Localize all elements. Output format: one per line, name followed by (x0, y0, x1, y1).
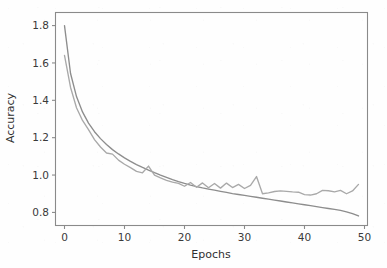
x-axis-title: Epochs (191, 248, 231, 261)
line-chart-plot: 01020304050 0.81.01.21.41.61.8 Epochs Ac… (0, 0, 387, 268)
chart-figure: 01020304050 0.81.01.21.41.61.8 Epochs Ac… (0, 0, 387, 268)
x-tick-label: 20 (178, 231, 191, 243)
y-tick-label: 1.8 (32, 19, 49, 31)
x-tick-label: 40 (298, 231, 311, 243)
y-tick-label: 1.0 (32, 169, 49, 181)
y-tick-label: 0.8 (32, 206, 49, 218)
y-tick-label: 1.4 (32, 94, 49, 106)
y-axis-title: Accuracy (4, 92, 17, 143)
x-tick-label: 0 (61, 231, 68, 243)
x-tick-label: 30 (238, 231, 251, 243)
figure-background (0, 0, 387, 268)
x-tick-label: 50 (358, 231, 371, 243)
x-tick-label: 10 (118, 231, 131, 243)
y-tick-label: 1.6 (32, 57, 49, 69)
y-tick-label: 1.2 (32, 131, 49, 143)
